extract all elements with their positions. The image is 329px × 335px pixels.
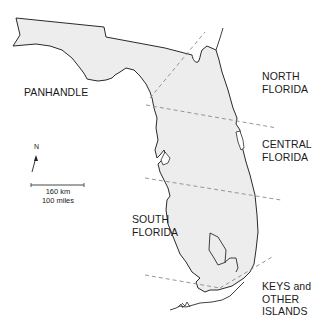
label-keys-islands: KEYS and OTHER ISLANDS: [262, 280, 311, 318]
north-arrow-icon: [32, 155, 38, 172]
label-central-florida: CENTRAL FLORIDA: [262, 138, 312, 163]
scale-bar-label: 160 km 100 miles: [30, 188, 86, 205]
label-south-florida: SOUTH FLORIDA: [132, 213, 178, 238]
label-north-florida: NORTH FLORIDA: [262, 70, 308, 95]
state-border-line: [216, 28, 223, 50]
florida-land: [13, 18, 258, 292]
compass-north-label: N: [34, 143, 39, 150]
label-panhandle: PANHANDLE: [24, 86, 88, 99]
